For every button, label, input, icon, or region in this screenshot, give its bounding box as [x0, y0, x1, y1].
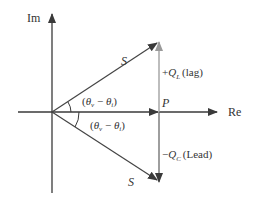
reactive-lead-label: −QC(Lead): [162, 148, 212, 163]
apparent-power-label-upper: S: [121, 54, 127, 68]
reactive-lag-label: +QL(lag): [162, 66, 203, 81]
real-power-label: P: [161, 96, 170, 110]
imaginary-axis-label: Im: [27, 11, 41, 25]
angle-arc-upper: [68, 102, 71, 112]
angle-label-upper: (θv − θi): [82, 95, 117, 109]
power-triangle-diagram: Im Re S S P +QL(lag) −QC(Lead) (θv − θi)…: [0, 0, 254, 201]
apparent-power-label-lower: S: [128, 175, 134, 189]
angle-label-lower: (θv − θi): [90, 119, 125, 133]
angle-arc-lower: [75, 112, 79, 127]
real-axis-label: Re: [228, 105, 241, 119]
